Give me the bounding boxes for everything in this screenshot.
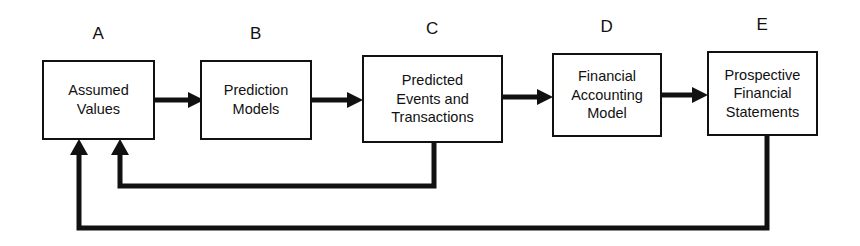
arrow-a-to-b xyxy=(155,92,204,108)
node-box-c[interactable]: Predicted Events and Transactions xyxy=(362,55,503,143)
node-label-d-text: D xyxy=(601,17,614,36)
node-e-text: Prospective Financial Statements xyxy=(721,66,805,122)
node-label-b-text: B xyxy=(250,24,262,43)
node-label-e: E xyxy=(707,16,818,33)
node-label-c: C xyxy=(362,20,503,37)
node-box-a[interactable]: Assumed Values xyxy=(42,60,155,140)
node-box-e[interactable]: Prospective Financial Statements xyxy=(707,51,818,136)
node-a-text: Assumed Values xyxy=(64,81,132,118)
feedback-c-to-a xyxy=(111,139,434,186)
arrow-d-to-e xyxy=(662,87,708,103)
node-b-text: Prediction Models xyxy=(220,81,292,118)
node-label-d: D xyxy=(552,18,662,35)
node-label-a: A xyxy=(42,25,155,42)
node-box-d[interactable]: Financial Accounting Model xyxy=(552,53,662,137)
feedback-e-to-a xyxy=(70,136,767,228)
diagram-canvas: A Assumed Values B Prediction Models C P… xyxy=(0,0,860,246)
node-box-b[interactable]: Prediction Models xyxy=(200,60,312,140)
node-c-text: Predicted Events and Transactions xyxy=(387,71,477,127)
node-label-a-text: A xyxy=(93,24,105,43)
node-label-c-text: C xyxy=(426,19,439,38)
node-d-text: Financial Accounting Model xyxy=(567,67,647,123)
node-label-b: B xyxy=(200,25,312,42)
node-label-e-text: E xyxy=(757,15,769,34)
arrow-c-to-d xyxy=(503,89,553,105)
arrow-b-to-c xyxy=(312,92,363,108)
